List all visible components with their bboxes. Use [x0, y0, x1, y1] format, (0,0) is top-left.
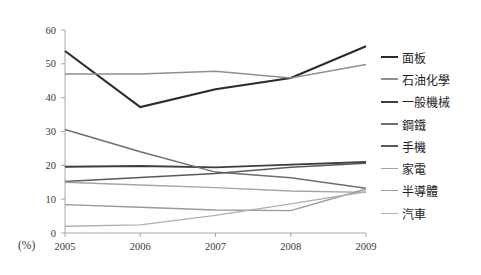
legend-swatch-icon — [381, 213, 398, 214]
legend-item[interactable]: 家電 — [381, 157, 481, 179]
series-line-汽車 — [65, 192, 366, 227]
line-chart: 0102030405060 20052006200720082009 (%) 面… — [0, 0, 481, 275]
legend-item[interactable]: 半導體 — [381, 180, 481, 202]
x-tick-label: 2008 — [280, 241, 301, 252]
x-axis-group: 20052006200720082009 — [55, 233, 377, 252]
legend-label: 鋼鐵 — [402, 116, 426, 133]
legend-item[interactable]: 鋼鐵 — [381, 113, 481, 135]
y-tick-label: 10 — [46, 194, 57, 205]
legend-item[interactable]: 手機 — [381, 135, 481, 157]
chart-legend: 面板石油化學一般機械鋼鐵手機家電半導體汽車 — [381, 46, 481, 224]
legend-label: 石油化學 — [402, 71, 450, 88]
series-line-面板 — [65, 46, 366, 107]
legend-label: 一般機械 — [402, 93, 450, 110]
legend-swatch-icon — [381, 123, 398, 125]
series-line-石油化學 — [65, 65, 366, 79]
legend-label: 手機 — [402, 138, 426, 155]
y-tick-label: 50 — [46, 58, 57, 69]
y-tick-label: 20 — [46, 160, 57, 171]
x-tick-group: 20052006200720082009 — [55, 233, 377, 252]
series-line-一般機械 — [65, 162, 366, 167]
legend-swatch-icon — [381, 56, 398, 58]
legend-swatch-icon — [381, 101, 398, 103]
x-tick-label: 2009 — [356, 241, 377, 252]
legend-swatch-icon — [381, 190, 398, 191]
y-axis-unit-label: (%) — [18, 239, 35, 252]
series-group — [65, 46, 366, 226]
y-tick-label: 40 — [46, 92, 57, 103]
legend-swatch-icon — [381, 145, 398, 147]
series-line-家電 — [65, 182, 366, 192]
legend-item[interactable]: 石油化學 — [381, 68, 481, 90]
legend-item[interactable]: 面板 — [381, 46, 481, 68]
legend-item[interactable]: 一般機械 — [381, 91, 481, 113]
y-tick-label: 0 — [51, 228, 56, 239]
legend-label: 半導體 — [402, 182, 438, 199]
y-tick-label: 60 — [46, 25, 57, 36]
x-tick-label: 2006 — [130, 241, 151, 252]
y-tick-label: 30 — [46, 126, 57, 137]
legend-item[interactable]: 汽車 — [381, 202, 481, 224]
legend-label: 面板 — [402, 49, 426, 66]
legend-label: 汽車 — [402, 205, 426, 222]
x-tick-label: 2005 — [55, 241, 76, 252]
legend-swatch-icon — [381, 78, 398, 80]
x-tick-label: 2007 — [205, 241, 226, 252]
legend-swatch-icon — [381, 168, 398, 169]
legend-label: 家電 — [402, 160, 426, 177]
y-axis-group: 0102030405060 — [46, 25, 66, 239]
y-tick-group: 0102030405060 — [46, 25, 66, 239]
